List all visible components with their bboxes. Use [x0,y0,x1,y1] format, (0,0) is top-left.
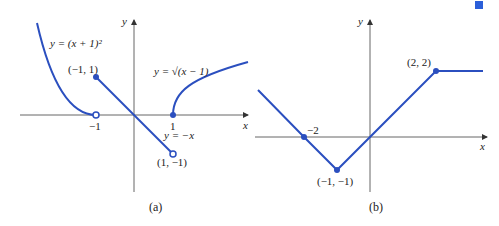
y-axis-label: y [357,15,363,27]
figure: y x −1 1 y = (x + 1)² y = √(x − 1) y = −… [0,0,499,226]
closed-point [433,68,439,74]
x-axis-label: x [479,140,485,152]
tick-neg1: −1 [89,120,101,132]
line-label: y = −x [163,129,194,141]
caption-a: (a) [149,200,162,214]
x-axis-label: x [242,119,248,131]
corner-marker [475,1,483,9]
point-label: (2, 2) [407,56,431,69]
caption-b: (b) [369,200,383,214]
point-label: (−1, 1) [68,63,98,76]
panel-b: y x −2 (2, 2) (−1, −1) (b) [255,15,487,214]
closed-point [170,112,176,118]
sqrt-label: y = √(x − 1) [153,65,209,78]
parabola-label: y = (x + 1)² [49,37,102,50]
panel-a: y x −1 1 y = (x + 1)² y = √(x − 1) y = −… [20,15,248,214]
tick-neg2: −2 [307,124,319,136]
y-axis-label: y [121,15,127,27]
point-label: (−1, −1) [317,175,354,188]
open-point [93,112,99,118]
point-label: (1, −1) [157,156,187,169]
closed-point [334,167,340,173]
